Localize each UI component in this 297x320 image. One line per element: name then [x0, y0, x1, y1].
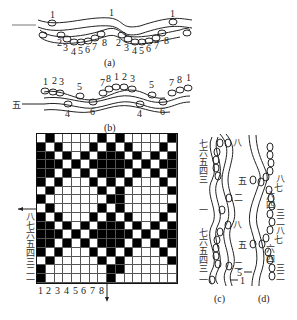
grid-cell [63, 178, 72, 187]
grid-cell [160, 178, 169, 187]
grid-cell [168, 239, 177, 248]
svg-text:5: 5 [78, 45, 83, 56]
label-a-top-1: 1 [50, 9, 55, 20]
grid-cell [37, 248, 46, 257]
grid-cell [125, 239, 134, 248]
grid-cell [116, 143, 125, 152]
caption-a: (a) [104, 57, 115, 69]
grid-cell [46, 213, 55, 222]
grid-cell [37, 187, 46, 196]
svg-text:5: 5 [237, 267, 242, 278]
grid-cell [37, 169, 46, 178]
label-b-left: 五 [12, 100, 21, 110]
grid-cell [98, 152, 107, 161]
svg-text:6: 6 [90, 106, 95, 117]
svg-text:4: 4 [132, 45, 137, 56]
grid-cell [98, 265, 107, 274]
svg-text:2: 2 [46, 285, 51, 296]
svg-text:二: 二 [234, 193, 243, 203]
grid-cell [55, 230, 64, 239]
grid-cell [107, 152, 116, 161]
grid-cell [151, 230, 160, 239]
grid-cell [81, 195, 90, 204]
grid-cell [116, 230, 125, 239]
svg-text:6: 6 [85, 44, 90, 55]
svg-text:六: 六 [266, 243, 275, 254]
grid-cell [151, 152, 160, 161]
grid-cell [116, 178, 125, 187]
grid-cell [63, 230, 72, 239]
grid-cell [107, 239, 116, 248]
grid-cell [46, 152, 55, 161]
grid-cell [107, 160, 116, 169]
grid-cell [81, 230, 90, 239]
grid-cell [63, 248, 72, 257]
grid-cell [72, 187, 81, 196]
grid-cell [37, 274, 46, 283]
grid-cell [142, 152, 151, 161]
svg-text:8: 8 [164, 35, 169, 46]
grid-cell [90, 257, 99, 266]
grid-cell [151, 274, 160, 283]
grid-cell [151, 143, 160, 152]
svg-text:四: 四 [266, 200, 275, 210]
grid-cell [160, 143, 169, 152]
grid-cell [125, 134, 134, 143]
grid-cell [142, 178, 151, 187]
grid-cell [116, 248, 125, 257]
grid-cell [168, 195, 177, 204]
grid-cell [107, 204, 116, 213]
grid-cell [116, 204, 125, 213]
grid-cell [37, 230, 46, 239]
grid-cell [90, 152, 99, 161]
grid-cell [125, 160, 134, 169]
grid-cell [72, 178, 81, 187]
grid-cell [81, 178, 90, 187]
svg-text:7: 7 [90, 285, 95, 296]
grid-cell [116, 187, 125, 196]
grid-cell [72, 257, 81, 266]
grid-cell [81, 143, 90, 152]
grid-cell [90, 134, 99, 143]
grid-cell [151, 265, 160, 274]
grid-cell [37, 160, 46, 169]
svg-text:三: 三 [199, 175, 208, 185]
grid-cell [125, 274, 134, 283]
grid-cell [142, 274, 151, 283]
grid-cell [98, 178, 107, 187]
grid-cell [81, 187, 90, 196]
grid-cell [37, 213, 46, 222]
grid-cell [107, 265, 116, 274]
svg-text:三: 三 [199, 264, 208, 274]
grid-cell [107, 230, 116, 239]
grid-cell [125, 178, 134, 187]
svg-text:1: 1 [38, 285, 43, 296]
grid-cell [55, 248, 64, 257]
grid-cell [133, 160, 142, 169]
grid-cell [72, 248, 81, 257]
grid-cell [81, 265, 90, 274]
grid-cell [81, 239, 90, 248]
grid-cell [63, 187, 72, 196]
grid-cell [55, 160, 64, 169]
grid-cell [98, 222, 107, 231]
figure-b [22, 84, 192, 112]
grid-cell [125, 257, 134, 266]
grid-cell [55, 204, 64, 213]
svg-text:8: 8 [106, 73, 111, 84]
grid-cell [151, 239, 160, 248]
grid-cell [160, 187, 169, 196]
grid-cell [168, 248, 177, 257]
grid-cell [160, 134, 169, 143]
grid-cell [46, 195, 55, 204]
grid-cell [107, 187, 116, 196]
grid-cell [90, 143, 99, 152]
grid-bottom-labels: 1 2 3 4 5 6 7 8 [38, 285, 104, 296]
grid-cell [81, 274, 90, 283]
svg-text:1: 1 [186, 72, 191, 83]
grid-cell [98, 195, 107, 204]
grid-cell [37, 134, 46, 143]
grid-cell [168, 204, 177, 213]
grid-cell [98, 134, 107, 143]
svg-text:5: 5 [149, 79, 154, 90]
